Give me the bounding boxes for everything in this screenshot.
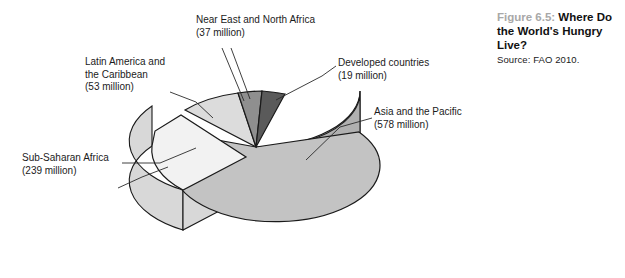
- slice-label-asia-value: (578 million): [374, 119, 462, 132]
- slice-label-latin-america-value: (53 million): [85, 81, 165, 94]
- figure-number: Figure 6.5:: [497, 11, 555, 23]
- slice-label-subsaharan-value: (239 million): [22, 165, 109, 178]
- slice-label-developed-value: (19 million): [338, 70, 429, 83]
- slice-label-asia: Asia and the Pacific (578 million): [374, 106, 462, 131]
- leader-line-developed: [276, 66, 336, 100]
- figure-source: Source: FAO 2010.: [497, 54, 625, 66]
- slice-label-asia-name: Asia and the Pacific: [374, 106, 462, 117]
- slice-label-near-east-value: (37 million): [196, 27, 315, 40]
- pie-chart: Near East and North Africa (37 million) …: [0, 0, 500, 278]
- slice-label-near-east-name: Near East and North Africa: [196, 14, 315, 25]
- figure-caption-title: Figure 6.5: Where Do the World's Hungry …: [497, 10, 625, 52]
- slice-label-latin-america-name-line1: Latin America and: [85, 56, 165, 67]
- figure-container: Near East and North Africa (37 million) …: [0, 0, 625, 278]
- slice-label-subsaharan-name: Sub-Saharan Africa: [22, 152, 109, 163]
- slice-label-latin-america: Latin America and the Caribbean (53 mill…: [85, 56, 165, 94]
- leader-line-near-east-b: [231, 48, 250, 99]
- slice-label-subsaharan: Sub-Saharan Africa (239 million): [22, 152, 109, 177]
- slice-label-latin-america-name-line2: the Caribbean: [85, 69, 165, 82]
- slice-label-developed-name: Developed countries: [338, 57, 429, 68]
- slice-label-near-east: Near East and North Africa (37 million): [196, 14, 315, 39]
- slice-label-developed: Developed countries (19 million): [338, 57, 429, 82]
- figure-caption: Figure 6.5: Where Do the World's Hungry …: [497, 10, 625, 66]
- pie-chart-svg: [0, 0, 500, 278]
